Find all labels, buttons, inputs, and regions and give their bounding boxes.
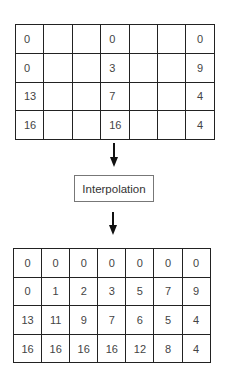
grid-cell: 0 [14,249,42,278]
output-grid: 0 0 0 0 0 0 0 0 1 2 3 5 7 9 13 11 9 7 6 … [13,248,211,363]
grid-cell: 6 [126,306,154,335]
grid-cell [72,82,100,111]
grid-cell: 9 [182,277,210,306]
grid-cell: 0 [14,277,42,306]
grid-row: 0 0 0 0 0 0 0 [14,249,211,278]
grid-cell: 7 [98,306,126,335]
grid-cell: 7 [154,277,182,306]
grid-cell [44,25,72,54]
grid-cell [129,82,157,111]
grid-cell [44,82,72,111]
grid-cell: 4 [182,306,210,335]
grid-cell [72,53,100,82]
grid-cell: 13 [16,82,44,111]
grid-cell: 4 [182,334,210,363]
grid-cell: 1 [42,277,70,306]
grid-row: 16 16 16 16 12 8 4 [14,334,211,363]
grid-cell: 0 [42,249,70,278]
grid-cell: 16 [14,334,42,363]
grid-cell [129,53,157,82]
grid-row: 16 16 4 [16,111,215,140]
grid-cell: 12 [126,334,154,363]
grid-cell: 9 [186,53,214,82]
grid-cell: 16 [98,334,126,363]
grid-cell [44,53,72,82]
grid-cell [44,111,72,140]
grid-row: 0 3 9 [16,53,215,82]
grid-cell: 0 [16,53,44,82]
grid-row: 0 1 2 3 5 7 9 [14,277,211,306]
grid-cell: 5 [126,277,154,306]
grid-cell [72,25,100,54]
grid-cell: 0 [154,249,182,278]
grid-cell [72,111,100,140]
grid-cell: 0 [182,249,210,278]
grid-cell: 16 [70,334,98,363]
grid-cell [157,53,185,82]
grid-cell: 11 [42,306,70,335]
grid-cell: 0 [98,249,126,278]
grid-cell [129,25,157,54]
grid-cell: 8 [154,334,182,363]
grid-cell: 7 [101,82,129,111]
interpolation-label: Interpolation [82,183,145,195]
grid-cell: 3 [101,53,129,82]
grid-cell: 0 [16,25,44,54]
grid-cell: 16 [101,111,129,140]
grid-cell [129,111,157,140]
grid-cell [157,111,185,140]
interpolation-box: Interpolation [74,175,154,202]
grid-cell: 0 [186,25,214,54]
grid-cell: 5 [154,306,182,335]
grid-row: 13 7 4 [16,82,215,111]
grid-cell: 2 [70,277,98,306]
grid-cell: 13 [14,306,42,335]
grid-cell: 0 [70,249,98,278]
grid-cell [157,25,185,54]
grid-cell: 16 [42,334,70,363]
grid-cell: 16 [16,111,44,140]
grid-cell: 9 [70,306,98,335]
grid-row: 0 0 0 [16,25,215,54]
grid-cell: 0 [101,25,129,54]
grid-row: 13 11 9 7 6 5 4 [14,306,211,335]
input-grid: 0 0 0 0 3 9 13 7 4 16 [15,24,215,140]
grid-cell: 3 [98,277,126,306]
grid-cell [157,82,185,111]
grid-cell: 4 [186,82,214,111]
grid-cell: 4 [186,111,214,140]
grid-cell: 0 [126,249,154,278]
